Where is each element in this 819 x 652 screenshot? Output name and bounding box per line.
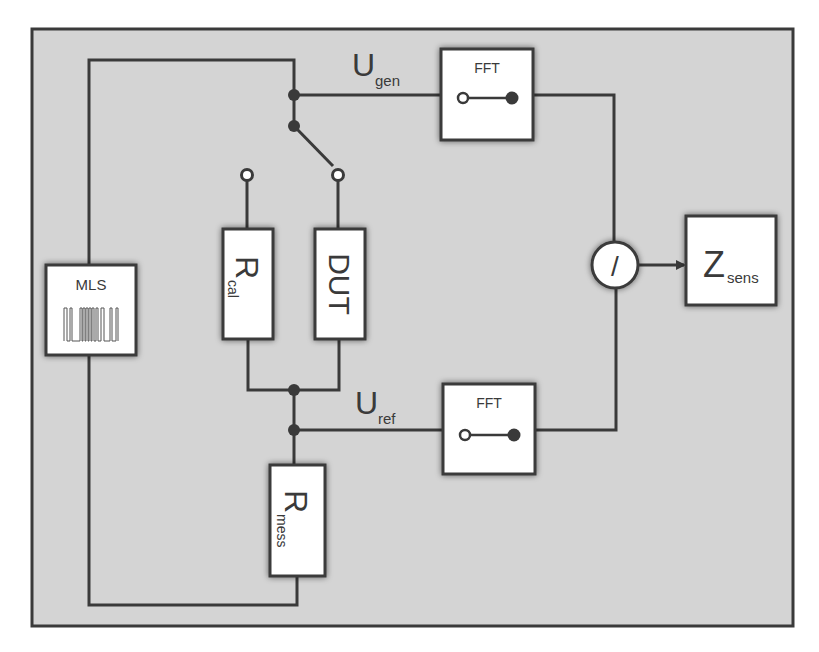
svg-text:sens: sens	[727, 269, 759, 286]
svg-text:FFT: FFT	[474, 60, 500, 76]
svg-text:R: R	[229, 256, 265, 279]
svg-text:R: R	[278, 490, 314, 513]
svg-text:Z: Z	[703, 244, 725, 285]
svg-text:mess: mess	[274, 514, 290, 547]
svg-text:U: U	[352, 47, 375, 83]
measurement-block-diagram: U gen U ref MLS R cal DUT R mess	[0, 0, 819, 652]
diagram-frame	[32, 29, 793, 626]
svg-text:FFT: FFT	[476, 395, 502, 411]
r-cal-block[interactable]: R cal	[223, 229, 273, 339]
svg-text:cal: cal	[225, 280, 241, 298]
switch-terminal-dut[interactable]	[333, 170, 344, 181]
switch-pivot-node	[288, 120, 300, 132]
svg-text:gen: gen	[375, 72, 400, 89]
mls-block[interactable]: MLS	[46, 265, 136, 355]
divider-node[interactable]: /	[592, 242, 638, 288]
svg-text:MLS: MLS	[76, 276, 107, 293]
dut-block[interactable]: DUT	[315, 229, 365, 339]
fft-ref-block[interactable]: FFT	[443, 384, 535, 474]
junction-node-upper	[288, 384, 300, 396]
svg-text:/: /	[611, 251, 619, 282]
r-mess-block[interactable]: R mess	[270, 465, 325, 576]
svg-text:DUT: DUT	[323, 253, 356, 315]
switch-terminal-rcal[interactable]	[242, 170, 253, 181]
z-sens-block[interactable]: Z sens	[686, 216, 776, 305]
svg-text:ref: ref	[378, 410, 396, 427]
switch-common-node	[288, 89, 300, 101]
mls-sequence-waveform-icon	[64, 308, 118, 341]
junction-node-uref	[288, 424, 300, 436]
svg-text:U: U	[355, 385, 378, 421]
fft-gen-block[interactable]: FFT	[441, 49, 533, 140]
